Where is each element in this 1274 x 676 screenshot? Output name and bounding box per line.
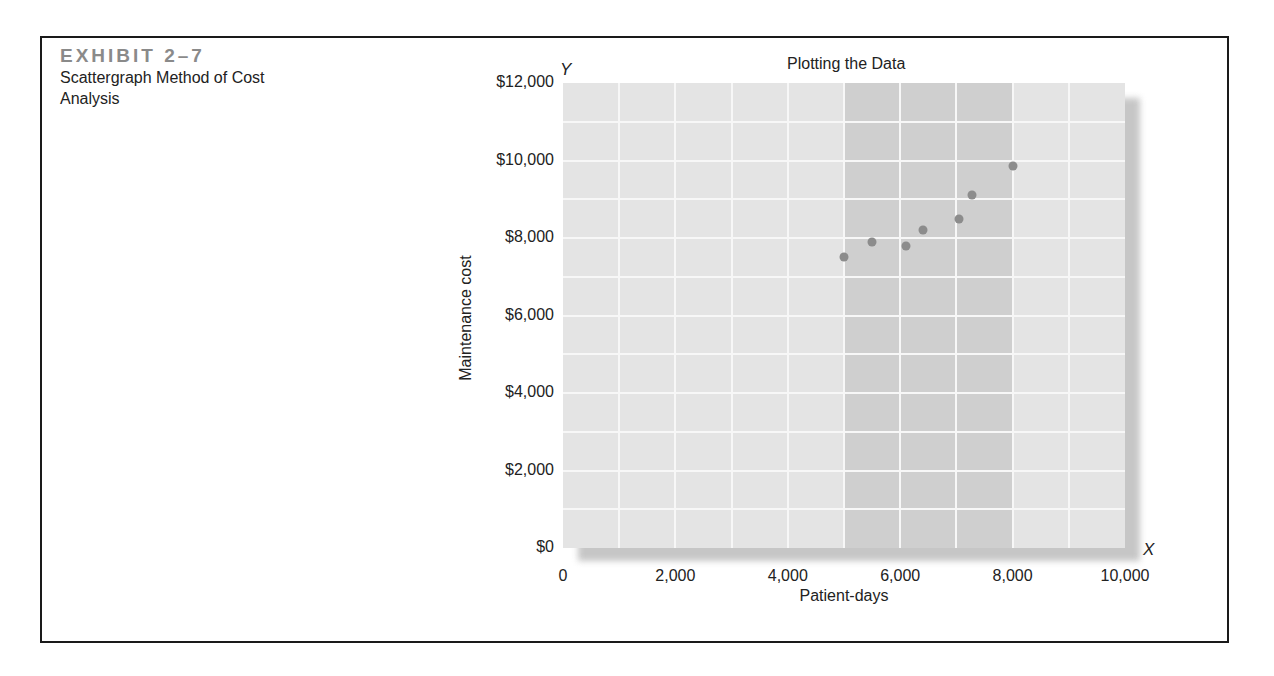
horizontal-gridline (563, 392, 1125, 394)
data-point (1008, 162, 1017, 171)
horizontal-gridline (563, 431, 1125, 433)
data-point (955, 214, 964, 223)
x-axis-label: Patient-days (800, 587, 889, 605)
y-tick-label: $0 (536, 538, 554, 556)
y-tick-label: $8,000 (505, 228, 554, 246)
horizontal-gridline (563, 470, 1125, 472)
exhibit-title: Scattergraph Method of Cost Analysis (60, 67, 320, 109)
horizontal-gridline (563, 237, 1125, 239)
horizontal-gridline (563, 353, 1125, 355)
data-point (840, 253, 849, 262)
x-axis-marker: X (1143, 540, 1154, 560)
y-tick-label: $12,000 (496, 73, 554, 91)
horizontal-gridline (563, 198, 1125, 200)
y-tick-label: $4,000 (505, 383, 554, 401)
chart-title: Plotting the Data (787, 55, 905, 73)
x-tick-label: 6,000 (880, 567, 920, 585)
y-tick-label: $2,000 (505, 461, 554, 479)
x-tick-label: 8,000 (993, 567, 1033, 585)
y-axis-marker: Y (560, 60, 571, 80)
horizontal-gridline (563, 160, 1125, 162)
x-tick-label: 0 (559, 567, 568, 585)
data-point (967, 191, 976, 200)
x-tick-label: 2,000 (655, 567, 695, 585)
data-point (868, 237, 877, 246)
horizontal-gridline (563, 315, 1125, 317)
y-tick-label: $6,000 (505, 306, 554, 324)
x-tick-label: 10,000 (1101, 567, 1150, 585)
y-axis-label: Maintenance cost (457, 255, 475, 380)
data-point (918, 226, 927, 235)
data-point (901, 241, 910, 250)
horizontal-gridline (563, 508, 1125, 510)
exhibit-number: EXHIBIT 2–7 (60, 45, 205, 67)
y-tick-label: $10,000 (496, 151, 554, 169)
horizontal-gridline (563, 276, 1125, 278)
plot-area (563, 83, 1125, 548)
x-tick-label: 4,000 (768, 567, 808, 585)
horizontal-gridline (563, 121, 1125, 123)
